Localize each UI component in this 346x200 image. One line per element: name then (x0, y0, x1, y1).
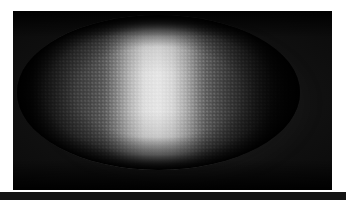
specimen-body[interactable] (17, 15, 300, 170)
plate-footer-strip (0, 192, 346, 200)
figure-caption (0, 0, 1, 1)
micrograph-plate[interactable] (13, 11, 332, 190)
figure-root (0, 0, 346, 200)
specimen-rim-vignette (17, 15, 300, 170)
